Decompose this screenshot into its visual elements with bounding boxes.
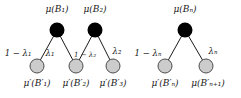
node-parent-Bn bbox=[178, 23, 193, 38]
parent-node-label-Bn: μ(Bₙ) bbox=[173, 5, 196, 14]
node-child-Bp1 bbox=[30, 59, 44, 73]
child-node-label-Bpn1: μ(B′ₙ₊₁) bbox=[191, 79, 225, 88]
edge-label-B1-Bp2: λ₁ bbox=[46, 49, 55, 58]
node-parent-B2 bbox=[88, 23, 103, 38]
parent-node-label-B1: μ(B₁) bbox=[45, 5, 68, 14]
node-child-Bpn1 bbox=[199, 59, 213, 73]
node-parent-B1 bbox=[50, 23, 65, 38]
edge-label-Bn-Bpn: 1 − λₙ bbox=[135, 49, 162, 58]
edge-label-Bn-Bpn1: λₙ bbox=[209, 47, 218, 56]
child-node-label-Bp3: μ′(B′₃) bbox=[99, 79, 126, 88]
edge-label-B1-Bp1: 1 − λ₁ bbox=[5, 49, 32, 58]
left-cluster-child-nodes bbox=[30, 59, 120, 73]
right-cluster-child-nodes bbox=[158, 59, 213, 73]
graph-diagram-figure: μ(B₁) μ(B₂) μ′(B′₁) μ′(B′₂) μ′(B′₃) 1 − … bbox=[0, 0, 241, 98]
edge-label-B2-Bp2: 1 − λ₂ bbox=[74, 52, 96, 59]
left-cluster-parent-nodes bbox=[50, 23, 103, 38]
edge-label-B2-Bp3: λ₂ bbox=[113, 47, 122, 56]
right-cluster-parent-nodes bbox=[178, 23, 193, 38]
child-node-label-Bp1: μ′(B′₁) bbox=[23, 79, 50, 88]
node-child-Bp2 bbox=[69, 59, 83, 73]
node-child-Bpn bbox=[158, 59, 172, 73]
parent-node-label-B2: μ(B₂) bbox=[83, 5, 106, 14]
child-node-label-Bp2: μ′(B′₂) bbox=[62, 79, 89, 88]
child-node-label-Bpn: μ′(B′ₙ) bbox=[151, 79, 178, 88]
node-child-Bp3 bbox=[106, 59, 120, 73]
